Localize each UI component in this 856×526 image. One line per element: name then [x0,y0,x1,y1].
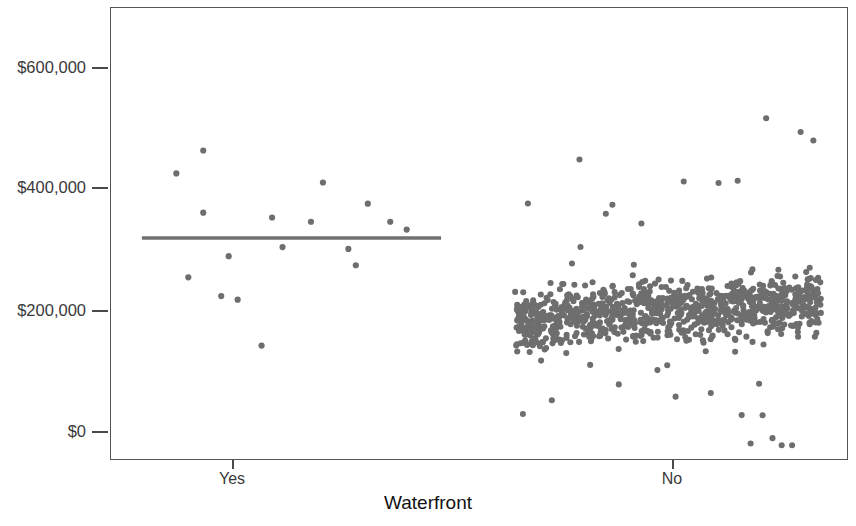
y-tick-label: $600,000 [17,58,86,77]
plot-area [110,7,848,460]
y-tick-mark [92,310,108,312]
y-axis-title: Home Price [0,0,28,30]
y-tick-mark [92,67,108,69]
y-tick-label: $0 [68,422,86,441]
x-tick-label-yes: Yes [219,470,245,488]
y-tick-label: $200,000 [17,301,86,320]
scatter-canvas [111,8,847,459]
x-axis-title: Waterfront [0,492,856,514]
x-tick-label-no: No [662,470,682,488]
scatter-plot-figure: Home Price $600,000 $400,000 $200,000 $0… [0,0,856,526]
x-tick-mark [672,460,674,469]
x-tick-mark [232,460,234,469]
y-tick-label: $400,000 [17,178,86,197]
y-tick-mark [92,431,108,433]
data-points-layer [111,8,847,459]
y-tick-mark [92,187,108,189]
